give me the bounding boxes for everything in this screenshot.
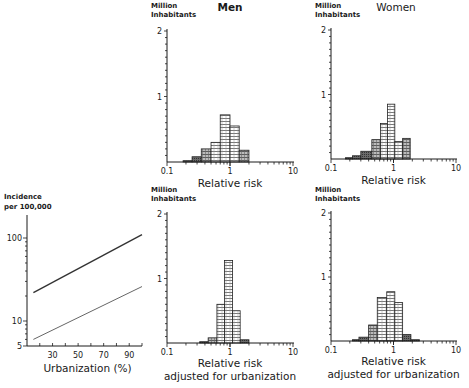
y-axis-label-line1: Million	[151, 186, 177, 194]
y-axis-label-line2: Inhabitants	[315, 195, 360, 203]
y-tick-label: 1	[321, 273, 326, 282]
incidence-vs-urbanization: Incidenceper 100,00051010030507090Urbani…	[4, 193, 142, 374]
histogram-bar	[208, 338, 217, 343]
men-relative-risk: MillionInhabitantsMen120.1110Relative ri…	[151, 1, 298, 189]
histogram-bar	[220, 115, 230, 162]
men-relative-risk-adjusted: MillionInhabitants120.1110Relative riska…	[151, 186, 298, 382]
histogram-bar	[201, 149, 211, 162]
y-tick-label: 2	[321, 209, 326, 218]
y-axis-label-line2: per 100,000	[4, 203, 52, 211]
x-tick-label: 10	[288, 348, 298, 357]
histogram-bar	[403, 335, 411, 341]
figure: Incidenceper 100,00051010030507090Urbani…	[0, 0, 469, 388]
y-tick-label: 100	[7, 234, 22, 243]
series-line-men	[33, 235, 142, 293]
histogram-bar	[230, 126, 239, 162]
x-axis-sublabel: adjusted for urbanization	[164, 370, 296, 382]
x-axis-label: Relative risk	[198, 177, 263, 189]
x-axis-label: Relative risk	[361, 174, 426, 186]
histogram-bar	[225, 260, 233, 343]
y-axis-label-line1: Million	[315, 186, 341, 194]
panel-title: Women	[376, 1, 416, 13]
y-axis-label-line2: Inhabitants	[151, 11, 196, 19]
x-tick-label: 0.1	[325, 164, 338, 173]
histogram-bar	[372, 140, 381, 159]
x-tick-label: 10	[288, 167, 298, 176]
x-axis-label: Relative risk	[198, 357, 263, 369]
x-tick-label: 1	[227, 348, 232, 357]
y-tick-label: 1	[157, 275, 162, 284]
y-axis-label-line2: Inhabitants	[151, 195, 196, 203]
x-axis-label: Relative risk	[361, 355, 426, 367]
x-tick-label: 90	[124, 351, 134, 360]
histogram-bar	[387, 292, 395, 341]
y-axis-label-line1: Million	[315, 2, 341, 10]
histogram-bar	[211, 142, 220, 162]
series-line-women	[33, 287, 142, 340]
x-tick-label: 50	[73, 351, 83, 360]
histogram-bar	[395, 142, 403, 159]
panel-title: Men	[217, 1, 242, 13]
histogram-bar	[192, 157, 201, 162]
y-tick-label: 2	[321, 26, 326, 35]
histogram-bar	[369, 325, 378, 341]
histogram-bar	[361, 151, 372, 159]
histogram-bar	[377, 297, 386, 341]
y-axis-label-line1: Incidence	[4, 193, 42, 201]
x-tick-label: 30	[47, 351, 57, 360]
histogram-bar	[233, 311, 241, 343]
y-axis-label-line2: Inhabitants	[315, 11, 360, 19]
histogram-bar	[381, 124, 388, 159]
y-tick-label: 2	[157, 27, 162, 36]
x-tick-label: 1	[227, 167, 232, 176]
histogram-bar	[359, 337, 369, 341]
y-axis-label-line1: Million	[151, 2, 177, 10]
women-relative-risk: MillionInhabitantsWomen120.1110Relative …	[315, 1, 461, 186]
y-tick-label: 10	[12, 317, 22, 326]
x-tick-label: 10	[451, 164, 461, 173]
charts-layer: Incidenceper 100,00051010030507090Urbani…	[4, 1, 461, 382]
histogram-bar	[395, 303, 403, 341]
y-tick-label: 2	[157, 210, 162, 219]
x-tick-label: 0.1	[325, 346, 338, 355]
y-tick-label: 5	[17, 342, 22, 351]
women-relative-risk-adjusted: MillionInhabitants120.1110Relative riska…	[315, 186, 461, 380]
x-tick-label: 1	[391, 346, 396, 355]
y-tick-label: 1	[157, 93, 162, 102]
x-axis-sublabel: adjusted for urbanization	[327, 368, 459, 380]
x-axis-label: Urbanization (%)	[43, 362, 131, 374]
x-tick-label: 0.1	[161, 167, 174, 176]
x-tick-label: 1	[391, 164, 396, 173]
y-tick-label: 1	[321, 91, 326, 100]
histogram-bar	[239, 150, 249, 162]
histogram-bar	[217, 304, 225, 343]
figure-canvas: Incidenceper 100,00051010030507090Urbani…	[0, 0, 469, 388]
x-tick-label: 70	[99, 351, 109, 360]
histogram-bar	[403, 138, 411, 159]
x-tick-label: 0.1	[161, 348, 174, 357]
x-tick-label: 10	[451, 346, 461, 355]
histogram-bar	[387, 104, 394, 159]
